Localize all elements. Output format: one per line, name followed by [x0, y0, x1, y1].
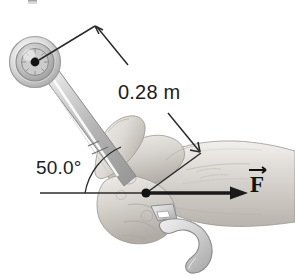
force-label: F: [250, 172, 264, 197]
angle-label: 50.0°: [36, 157, 82, 178]
scan-artifact: [28, 0, 37, 4]
figure-canvas: 0.28 m 50.0° F: [0, 0, 295, 276]
physics-figure: 0.28 m 50.0° F: [0, 0, 295, 276]
distance-label: 0.28 m: [118, 81, 180, 103]
pivot-point-dot-icon: [31, 58, 40, 67]
force-application-dot-icon: [141, 188, 150, 197]
socket-wrench-head-icon: [10, 37, 61, 88]
force-vector-label: F: [249, 167, 266, 197]
